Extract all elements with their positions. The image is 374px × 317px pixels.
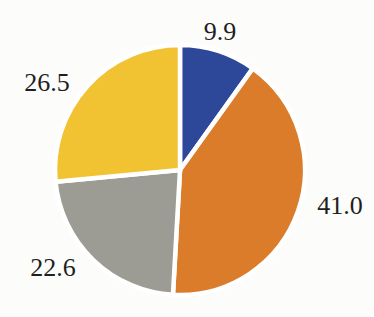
pie-label-yellow: 26.5 bbox=[24, 70, 70, 96]
pie-label-gray: 22.6 bbox=[30, 255, 76, 281]
pie-label-blue: 9.9 bbox=[204, 19, 237, 45]
pie-slice-yellow bbox=[55, 45, 180, 182]
pie-chart-figure: 9.9 41.0 22.6 26.5 bbox=[0, 0, 374, 317]
pie-label-orange: 41.0 bbox=[317, 193, 363, 219]
